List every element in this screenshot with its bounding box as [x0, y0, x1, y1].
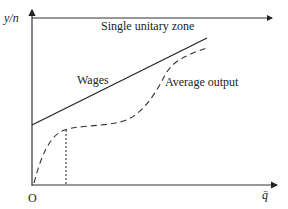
average-output-curve [34, 48, 207, 183]
y-axis-label: y/n [3, 11, 19, 25]
average-output-label: Average output [165, 75, 239, 89]
origin-label: O [28, 191, 37, 205]
x-axis-label: q̄ [262, 188, 268, 202]
wages-label: Wages [77, 73, 109, 87]
economics-diagram: y/n Single unitary zone Wages Average ou… [0, 0, 288, 209]
single-unitary-zone-label: Single unitary zone [101, 19, 194, 33]
